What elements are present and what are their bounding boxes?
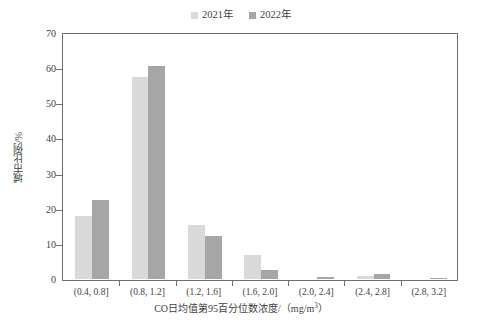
y-tick-label: 40 — [16, 134, 56, 144]
plot-area — [62, 33, 458, 281]
x-tick-label: (1.6, 2.0] — [243, 288, 278, 298]
bar[interactable] — [205, 236, 222, 279]
bar[interactable] — [317, 277, 334, 279]
bar[interactable] — [92, 200, 109, 279]
bar-group — [402, 35, 458, 279]
bar[interactable] — [374, 274, 391, 279]
x-tick-label: (2.0, 2.4] — [299, 288, 334, 298]
bars-layer — [64, 35, 456, 279]
x-tick-label: (2.4, 2.8] — [355, 288, 390, 298]
bar[interactable] — [148, 66, 165, 279]
chart-legend: 2021年2022年 — [0, 10, 482, 21]
y-tick-label: 0 — [16, 275, 56, 285]
x-tick-label: (0.8, 1.2] — [130, 288, 165, 298]
legend-entry[interactable]: 2021年 — [191, 10, 233, 21]
x-tick-mark — [401, 281, 402, 286]
y-tick-label: 30 — [16, 170, 56, 180]
y-tick-label: 10 — [16, 240, 56, 250]
y-tick-label: 60 — [16, 64, 56, 74]
x-axis-title-suffix: ） — [318, 303, 328, 314]
bar-group — [120, 35, 176, 279]
bar-group — [289, 35, 345, 279]
bar-group — [233, 35, 289, 279]
x-tick-mark — [288, 281, 289, 286]
bar[interactable] — [188, 225, 205, 279]
bar[interactable] — [244, 255, 261, 279]
bar[interactable] — [430, 278, 447, 279]
bar-group — [345, 35, 401, 279]
y-tick-label: 20 — [16, 205, 56, 215]
legend-swatch-icon — [191, 12, 198, 19]
x-tick-mark — [176, 281, 177, 286]
legend-label: 2021年 — [202, 10, 233, 21]
x-tick-mark — [119, 281, 120, 286]
x-tick-mark — [344, 281, 345, 286]
legend-swatch-icon — [249, 12, 256, 19]
bar[interactable] — [357, 276, 374, 280]
bar-group — [177, 35, 233, 279]
bar-group — [64, 35, 120, 279]
x-tick-label: (0.4, 0.8] — [74, 288, 109, 298]
x-tick-label: (1.2, 1.6] — [186, 288, 221, 298]
bar-chart-figure: 2021年2022年 城市比例/% 010203040506070 (0.4, … — [0, 0, 482, 325]
x-axis-title: CO日均值第95百分位数浓度/（mg/m3） — [0, 303, 482, 314]
x-tick-mark — [232, 281, 233, 286]
bar[interactable] — [75, 216, 92, 279]
y-tick-label: 70 — [16, 29, 56, 39]
legend-label: 2022年 — [260, 10, 291, 21]
bar[interactable] — [261, 270, 278, 279]
x-axis-title-prefix: CO日均值第95百分位数浓度/（mg/m — [154, 303, 314, 314]
x-tick-label: (2.8, 3.2] — [411, 288, 446, 298]
y-tick-label: 50 — [16, 99, 56, 109]
bar[interactable] — [132, 77, 149, 279]
legend-entry[interactable]: 2022年 — [249, 10, 291, 21]
